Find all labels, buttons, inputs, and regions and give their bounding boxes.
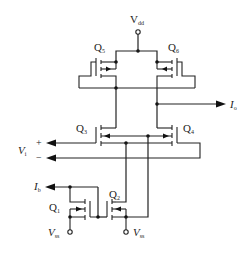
q3-label: Q3 [76, 122, 87, 135]
q2-label: Q2 [109, 188, 120, 201]
io-label: Io [229, 98, 237, 111]
ib-label: Ib [33, 180, 41, 193]
q1-gate-tie [90, 187, 98, 217]
output-io: Io [155, 98, 236, 111]
transistor-q1: Q1 Vss [48, 187, 90, 239]
q5-label: Q5 [94, 41, 105, 54]
bias-ib: Ib [33, 180, 98, 193]
transistor-q3: Q3 [55, 122, 116, 146]
vdd-rail [116, 51, 157, 62]
vss-right-label: Vss [133, 226, 145, 239]
q1-label: Q1 [49, 201, 60, 214]
transistor-q5: Q5 [79, 41, 118, 88]
vi-plus: + [36, 137, 42, 148]
vi-label: Vi [18, 144, 27, 157]
circuit-diagram: Vdd Q5 Q6 [0, 0, 252, 255]
q6-label: Q6 [168, 41, 179, 54]
q2-gate-wire [116, 143, 126, 202]
vdd-terminal: Vdd [130, 13, 144, 53]
q4-label: Q4 [183, 122, 194, 135]
tail-wire [126, 136, 148, 217]
input-vi: + − Vi [18, 137, 56, 163]
diff-pair-source [101, 134, 172, 145]
vss-left-label: Vss [48, 226, 60, 239]
vi-minus: − [36, 152, 42, 163]
vdd-label: Vdd [130, 13, 144, 26]
transistor-q2: Q2 Vss [109, 188, 145, 239]
transistor-q6: Q6 [155, 41, 195, 88]
